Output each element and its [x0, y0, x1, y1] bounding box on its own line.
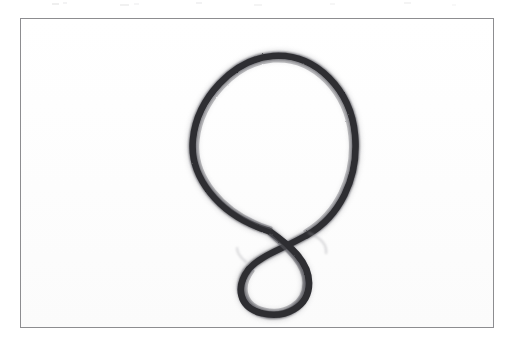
figure-alt-text: Hand-drawn loop: a large rounded loop wh…: [0, 0, 1, 1]
scan-speck: [120, 4, 129, 6]
scan-speck: [63, 2, 67, 4]
loop-figure-svg: [21, 19, 495, 329]
scan-speck: [452, 4, 456, 6]
scan-speck: [330, 3, 335, 5]
scan-speck: [196, 2, 202, 4]
scan-dust-overlay: [0, 0, 520, 14]
scan-speck: [404, 2, 411, 4]
drawing-area: [21, 19, 495, 329]
stroke-second-pass: [198, 61, 351, 310]
figure-border: [20, 18, 494, 328]
scan-speck: [52, 3, 59, 5]
scan-page: Hand-drawn loop: a large rounded loop wh…: [0, 0, 520, 345]
scan-speck: [134, 3, 139, 5]
scan-dust-svg: [0, 0, 520, 14]
scan-speck: [254, 4, 262, 6]
